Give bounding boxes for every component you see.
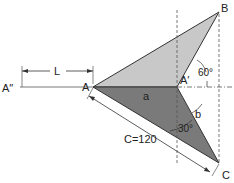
point-label-a-prime: A′: [180, 74, 189, 86]
side-label-a: a: [143, 90, 150, 102]
arrow-icon: [22, 69, 28, 73]
angle-label-60: 60°: [198, 67, 213, 78]
point-label-a: A: [82, 81, 90, 93]
point-label-c: C: [222, 169, 230, 181]
arrow-icon: [87, 69, 93, 73]
point-label-a-double-prime: A″: [2, 82, 13, 94]
point-label-b: B: [221, 2, 228, 14]
side-label-b: b: [195, 108, 201, 120]
geometry-diagram: A″ L A A′ B C a b C=120 60° 30°: [0, 0, 234, 183]
arrow-icon: [204, 167, 210, 172]
arrow-icon: [89, 96, 95, 101]
lower-triangle: [93, 87, 219, 163]
angle-label-30: 30°: [178, 123, 193, 134]
c-extension-c: [212, 164, 219, 176]
dimension-label-c: C=120: [124, 133, 157, 145]
dimension-label-l: L: [54, 65, 60, 77]
